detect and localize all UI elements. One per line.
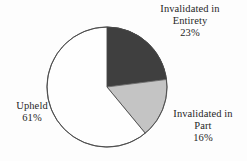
slice-label-invalidated-in-part: Invalidated in Part 16% [160,108,246,143]
slice-label-line-2: Entirety [136,15,244,27]
slice-value-invalidated-in-entirety: 23% [136,27,244,39]
slice-label-line-1: Upheld [4,100,60,112]
slice-label-line-1: Invalidated in [136,3,244,15]
slice-label-line-1: Invalidated in [160,108,246,120]
pie-chart-figure: Invalidated in Entirety 23% Invalidated … [0,0,247,161]
pie-slices-group [47,27,167,147]
slice-label-upheld: Upheld 61% [4,100,60,124]
slice-label-line-2: Part [160,120,246,132]
slice-value-invalidated-in-part: 16% [160,132,246,144]
slice-label-invalidated-in-entirety: Invalidated in Entirety 23% [136,3,244,38]
slice-value-upheld: 61% [4,112,60,124]
